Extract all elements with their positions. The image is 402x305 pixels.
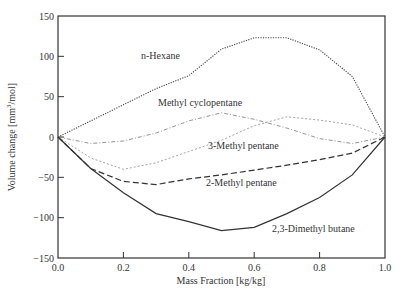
y-axis-title: Volume change [mm3/mol] — [5, 83, 17, 191]
series-lines — [58, 38, 385, 231]
chart: 150100500−50−100−150 0.00.20.40.60.81.0 … — [0, 0, 402, 305]
y-tick-label: 100 — [39, 51, 54, 62]
y-tick-label: −50 — [38, 172, 54, 183]
series-labels: n-HexaneMethyl cyclopentane3-Methyl pent… — [141, 50, 355, 234]
series-label: 2,3-Dimethyl butane — [272, 223, 355, 234]
x-axis-ticks: 0.00.20.40.60.81.0 — [52, 252, 392, 273]
series-line-n-hexane — [58, 38, 385, 137]
series-label: 3-Methyl pentane — [208, 140, 279, 151]
y-tick-label: 50 — [44, 91, 54, 102]
x-axis-title: Mass Fraction [kg/kg] — [177, 275, 266, 286]
x-tick-label: 1.0 — [379, 262, 392, 273]
series-label: n-Hexane — [141, 50, 180, 61]
plot-frame — [58, 16, 385, 258]
x-tick-label: 0.4 — [183, 262, 196, 273]
y-tick-label: 150 — [39, 11, 54, 22]
series-line-methyl-cyclopentane — [58, 113, 385, 144]
x-tick-label: 0.2 — [117, 262, 130, 273]
y-tick-label: −100 — [33, 212, 54, 223]
x-tick-label: 0.8 — [313, 262, 326, 273]
x-tick-label: 0.6 — [248, 262, 261, 273]
x-tick-label: 0.0 — [52, 262, 65, 273]
series-label: 2-Methyl pentane — [206, 177, 277, 188]
series-label: Methyl cyclopentane — [158, 97, 243, 108]
y-tick-label: 0 — [49, 132, 54, 143]
